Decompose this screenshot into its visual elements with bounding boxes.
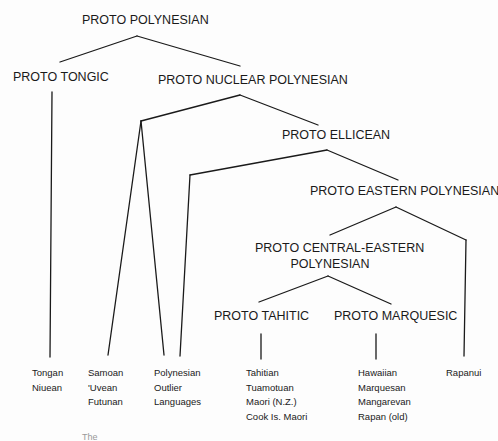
leaf-group-tongic: Tongan Niuean [32,366,63,395]
leaf-group-marquesic: Hawaiian Marquesan Mangarevan Rapan (old… [358,366,411,424]
node-proto-central-eastern-line2: POLYNESIAN [255,256,405,272]
leaf-language: Rapanui [446,366,481,381]
edge-central-tahitic [259,276,328,302]
node-proto-polynesian: PROTO POLYNESIAN [82,12,209,28]
node-proto-marquesic: PROTO MARQUESIC [334,308,457,324]
leaf-language: Marquesan [358,381,411,396]
edge-root-nuclear [137,36,240,66]
leaf-language: Niuean [32,381,63,396]
leaf-language: Samoan [88,366,123,381]
leaf-group-rapanui: Rapanui [446,366,481,381]
leaf-language: Maori (N.Z.) [246,395,307,410]
edge-central-marquesic [328,276,391,304]
node-proto-ellicean: PROTO ELLICEAN [282,127,390,143]
edge-samoic-outlier [141,121,164,355]
leaf-language: Polynesian [154,366,201,381]
node-proto-central-eastern-line1: PROTO CENTRAL-EASTERN [255,240,405,256]
edge-nuclear-samoic-node [141,95,240,121]
leaf-language: Languages [154,395,201,410]
polynesian-family-tree-diagram: PROTO POLYNESIAN PROTO TONGIC PROTO NUCL… [0,0,498,441]
node-proto-tahitic: PROTO TAHITIC [214,308,309,324]
edge-root-tongic [60,36,137,62]
edge-eastern-central [330,207,396,235]
leaf-language: Rapan (old) [358,410,411,425]
edge-ellicean-outlier [180,175,190,356]
leaf-language: Futunan [88,395,123,410]
edge-eastern-rapanui-node [396,207,466,240]
leaf-language: Hawaiian [358,366,411,381]
edge-eastern-rapanui [464,240,466,356]
leaf-language: Tuamotuan [246,381,307,396]
leaf-group-tahitic: Tahitian Tuamotuan Maori (N.Z.) Cook Is.… [246,366,307,424]
edge-tongic-leaves [50,92,52,357]
leaf-group-outlier: Polynesian Outlier Languages [154,366,201,410]
node-proto-eastern-polynesian: PROTO EASTERN POLYNESIAN [310,183,498,199]
leaf-language: Cook Is. Maori [246,410,307,425]
edge-ellicean-outlier-node [190,150,327,175]
leaf-language: Tahitian [246,366,307,381]
edge-ellicean-eastern [327,150,398,180]
node-proto-tongic: PROTO TONGIC [13,69,109,85]
edge-nuclear-ellicean [240,95,318,125]
leaf-language: 'Uvean [88,381,123,396]
node-proto-nuclear-polynesian: PROTO NUCLEAR POLYNESIAN [158,72,348,88]
leaf-language: Mangarevan [358,395,411,410]
leaf-language: Tongan [32,366,63,381]
node-proto-central-eastern-polynesian: PROTO CENTRAL-EASTERN POLYNESIAN [255,240,405,272]
edge-samoic-samoan [108,121,141,355]
leaf-group-samoic: Samoan 'Uvean Futunan [88,366,123,410]
leaf-language: Outlier [154,381,201,396]
caption-fragment: The [82,432,98,441]
